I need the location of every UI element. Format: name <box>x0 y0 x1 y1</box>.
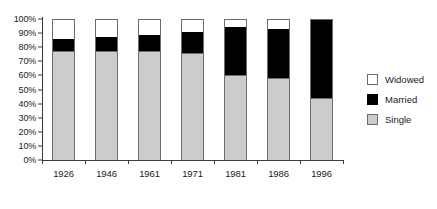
x-tick-mark <box>42 160 43 164</box>
bar-segment-single-1926 <box>52 51 75 160</box>
bar-1961[interactable] <box>138 19 161 160</box>
legend-label: Single <box>385 114 411 125</box>
y-tick-label: 60% <box>19 71 36 80</box>
y-tick-label: 80% <box>19 43 36 52</box>
white-square-swatch-icon <box>367 74 378 85</box>
x-tick-mark <box>257 160 258 164</box>
x-tick-label-1926: 1926 <box>53 168 74 179</box>
x-tick-mark <box>171 160 172 164</box>
bar-segment-widowed-1981 <box>224 19 247 27</box>
x-tick-label-1981: 1981 <box>225 168 246 179</box>
bar-segment-single-1946 <box>95 51 118 160</box>
bar-segment-widowed-1996 <box>310 19 333 20</box>
x-tick-label-1946: 1946 <box>96 168 117 179</box>
bar-segment-married-1986 <box>267 29 290 78</box>
legend-item-widowed: Widowed <box>367 74 424 85</box>
bar-1926[interactable] <box>52 19 75 160</box>
y-tick-label: 50% <box>19 85 36 94</box>
chart-legend: Widowed Married Single <box>367 74 424 125</box>
stacked-bar-chart: 100% 90% 80% 70% 60% 50% 40% 30% 20% 10%… <box>0 0 437 209</box>
bar-segment-widowed-1986 <box>267 19 290 29</box>
bar-1971[interactable] <box>181 19 204 160</box>
bar-segment-widowed-1961 <box>138 19 161 35</box>
x-tick-label-1961: 1961 <box>139 168 160 179</box>
bar-segment-married-1961 <box>138 35 161 52</box>
bar-segment-married-1996 <box>310 20 333 98</box>
y-tick-label: 10% <box>19 141 36 150</box>
y-tick-label: 30% <box>19 113 36 122</box>
legend-label: Married <box>385 94 417 105</box>
y-axis-tick-labels: 100% 90% 80% 70% 60% 50% 40% 30% 20% 10%… <box>0 19 42 160</box>
bar-segment-single-1986 <box>267 78 290 160</box>
legend-item-married: Married <box>367 94 424 105</box>
legend-item-single: Single <box>367 114 424 125</box>
x-tick-label-1971: 1971 <box>182 168 203 179</box>
bar-segment-single-1981 <box>224 75 247 160</box>
black-square-swatch-icon <box>367 94 378 105</box>
x-tick-mark <box>85 160 86 164</box>
x-tick-label-1996: 1996 <box>311 168 332 179</box>
bar-segment-single-1996 <box>310 98 333 160</box>
bar-segment-married-1981 <box>224 27 247 75</box>
bar-segment-widowed-1971 <box>181 19 204 32</box>
bar-segment-single-1961 <box>138 51 161 160</box>
x-axis-line <box>42 160 344 161</box>
plot-area <box>42 19 343 160</box>
y-tick-label: 90% <box>19 29 36 38</box>
y-tick-label: 40% <box>19 99 36 108</box>
bar-segment-married-1946 <box>95 37 118 51</box>
x-tick-mark <box>343 160 344 164</box>
bar-segment-married-1971 <box>181 32 204 53</box>
bar-segment-single-1971 <box>181 53 204 160</box>
bar-1986[interactable] <box>267 19 290 160</box>
x-tick-label-1986: 1986 <box>268 168 289 179</box>
bar-segment-widowed-1926 <box>52 19 75 39</box>
bar-segment-widowed-1946 <box>95 19 118 37</box>
y-tick-label: 20% <box>19 127 36 136</box>
x-tick-mark <box>128 160 129 164</box>
bar-segment-married-1926 <box>52 39 75 52</box>
bar-1981[interactable] <box>224 19 247 160</box>
gray-square-swatch-icon <box>367 114 378 125</box>
bar-1996[interactable] <box>310 19 333 160</box>
bar-1946[interactable] <box>95 19 118 160</box>
y-tick-label: 0% <box>23 156 36 165</box>
y-tick-label: 100% <box>14 15 36 24</box>
legend-label: Widowed <box>385 74 424 85</box>
y-tick-label: 70% <box>19 57 36 66</box>
x-tick-mark <box>300 160 301 164</box>
x-tick-mark <box>214 160 215 164</box>
